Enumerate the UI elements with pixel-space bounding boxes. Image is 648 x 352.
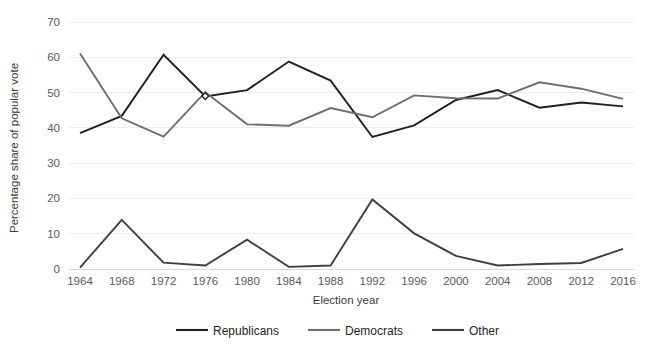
y-tick-label: 20 (47, 192, 60, 204)
x-tick-label: 2004 (485, 275, 511, 287)
x-tick-label: 1976 (193, 275, 219, 287)
series-line-republicans (80, 55, 623, 137)
y-tick-label: 30 (47, 157, 60, 169)
x-tick-label: 2012 (568, 275, 594, 287)
y-tick-label: 50 (47, 87, 60, 99)
y-tick-label: 0 (54, 263, 60, 275)
x-tick-label: 1988 (318, 275, 344, 287)
line-chart: 010203040506070 196419681972197619801984… (0, 0, 648, 352)
x-tick-label: 1972 (151, 275, 177, 287)
x-tick-label: 1980 (234, 275, 260, 287)
x-tick-label: 2016 (610, 275, 636, 287)
x-tick-label: 2008 (527, 275, 553, 287)
x-tick-label: 1996 (401, 275, 427, 287)
series-line-democrats (80, 53, 623, 136)
series-lines (80, 53, 623, 267)
x-axis-title: Election year (313, 294, 380, 306)
x-tick-label: 2000 (443, 275, 469, 287)
legend-label-republicans: Republicans (213, 324, 279, 338)
y-tick-label: 70 (47, 16, 60, 28)
y-tick-label: 10 (47, 228, 60, 240)
y-tick-label: 40 (47, 122, 60, 134)
x-tick-label: 1984 (276, 275, 302, 287)
legend-label-other: Other (469, 324, 499, 338)
x-tick-label: 1992 (360, 275, 386, 287)
y-axis-tick-labels: 010203040506070 (47, 16, 60, 275)
legend-label-democrats: Democrats (345, 324, 403, 338)
y-tick-label: 60 (47, 51, 60, 63)
x-axis-tick-labels: 1964196819721976198019841988199219962000… (67, 275, 636, 287)
chart-legend: RepublicansDemocratsOther (176, 324, 499, 338)
y-axis-title: Percentage share of popular vote (8, 63, 20, 233)
x-tick-label: 1968 (109, 275, 135, 287)
chart-container: 010203040506070 196419681972197619801984… (0, 0, 648, 352)
x-tick-label: 1964 (67, 275, 93, 287)
